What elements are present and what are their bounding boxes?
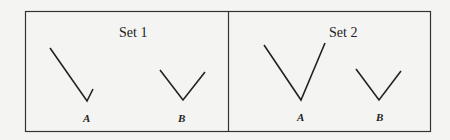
angle-b-label: B bbox=[375, 111, 383, 123]
angle-a-label: A bbox=[82, 112, 90, 124]
panel-set-1: Set 1 A B bbox=[50, 25, 205, 124]
panel-title: Set 1 bbox=[119, 25, 147, 40]
panel-set-2: Set 2 A B bbox=[264, 25, 401, 123]
angle-b-shape bbox=[356, 69, 401, 100]
angle-a-label: A bbox=[296, 111, 304, 123]
angle-a-shape bbox=[50, 48, 93, 101]
angle-b-shape bbox=[160, 70, 205, 100]
angle-b-label: B bbox=[177, 112, 185, 124]
angle-sets-diagram: Set 1 A B Set 2 A B bbox=[0, 0, 450, 140]
panel-title: Set 2 bbox=[329, 25, 357, 40]
angle-a-shape bbox=[264, 43, 325, 100]
